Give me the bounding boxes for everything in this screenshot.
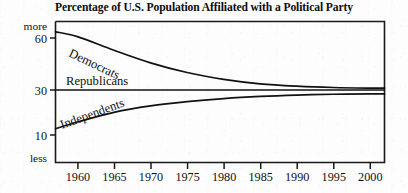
y-axis-top-label: more xyxy=(24,20,47,32)
x-axis-label-1975: 1975 xyxy=(175,170,199,184)
series-labels: Democrats Republicans Independents xyxy=(58,46,128,132)
x-axis-labels: 1960 1965 1970 1975 1980 1985 1990 1995 … xyxy=(66,170,383,184)
x-axis-label-1990: 1990 xyxy=(285,170,309,184)
chart-plot-area: more 60 30 10 less 1960 1965 1970 1975 1… xyxy=(0,0,408,193)
y-axis-bottom-label: less xyxy=(30,152,48,164)
y-axis-labels: more 60 30 10 less xyxy=(24,20,48,164)
x-axis-label-1960: 1960 xyxy=(66,170,90,184)
series-label-independents: Independents xyxy=(58,96,126,132)
x-axis-label-1995: 1995 xyxy=(322,170,346,184)
y-axis-label-10: 10 xyxy=(35,129,47,143)
x-axis-label-2000: 2000 xyxy=(358,170,382,184)
x-axis-label-1965: 1965 xyxy=(102,170,126,184)
chart-page: Percentage of U.S. Population Affiliated… xyxy=(0,0,408,193)
plot-frame xyxy=(56,22,385,163)
series-label-republicans: Republicans xyxy=(66,74,128,88)
y-axis-label-60: 60 xyxy=(35,32,47,46)
x-axis-label-1980: 1980 xyxy=(212,170,236,184)
x-axis-label-1985: 1985 xyxy=(249,170,273,184)
x-axis-label-1970: 1970 xyxy=(139,170,163,184)
y-axis-label-30: 30 xyxy=(35,84,47,98)
